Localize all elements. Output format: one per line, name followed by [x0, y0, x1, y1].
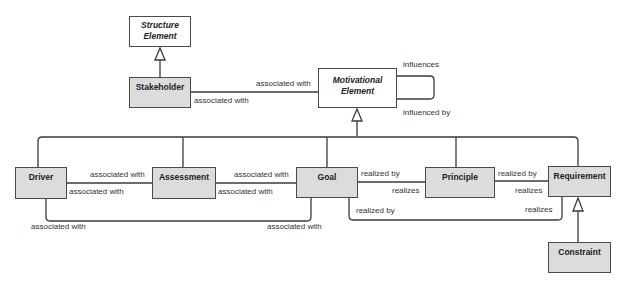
node-driver[interactable]: Driver: [15, 167, 67, 199]
edge-label: associated with: [234, 170, 289, 179]
node-label: Driver: [29, 172, 54, 182]
edge-label: realizes: [392, 186, 420, 195]
edge-label: associated with: [69, 187, 124, 196]
edge-label: realized by: [361, 169, 400, 178]
node-requirement[interactable]: Requirement: [548, 166, 611, 197]
node-label: Requirement: [554, 171, 606, 181]
edge-label: influences: [403, 60, 439, 69]
edge-label: realized by: [498, 169, 537, 178]
edge-label: associated with: [256, 79, 311, 88]
node-motivational-element[interactable]: Motivational Element: [318, 68, 397, 108]
edge-label: influenced by: [403, 108, 450, 117]
edge-label: associated with: [218, 187, 273, 196]
node-label: Motivational: [319, 75, 396, 86]
node-stakeholder[interactable]: Stakeholder: [129, 77, 191, 108]
node-label: Constraint: [558, 247, 601, 257]
node-label: Stakeholder: [136, 82, 185, 92]
motivation-metamodel-diagram: Structure Element Stakeholder Motivation…: [0, 0, 629, 293]
node-goal[interactable]: Goal: [296, 167, 358, 198]
edge-label: realizes: [525, 205, 553, 214]
node-principle[interactable]: Principle: [425, 167, 495, 198]
edge-label: associated with: [267, 222, 322, 231]
node-label: Element: [319, 86, 396, 97]
node-label: Goal: [318, 172, 337, 182]
node-structure-element[interactable]: Structure Element: [129, 16, 191, 47]
connector-lines: [0, 0, 629, 293]
node-label: Assessment: [159, 172, 209, 182]
edge-label: realizes: [515, 186, 543, 195]
node-label: Principle: [442, 172, 478, 182]
edge-label: associated with: [194, 96, 249, 105]
node-label: Element: [130, 31, 190, 42]
node-assessment[interactable]: Assessment: [152, 167, 216, 199]
edge-label: associated with: [31, 222, 86, 231]
edge-label: associated with: [90, 170, 145, 179]
node-constraint[interactable]: Constraint: [548, 242, 611, 273]
edge-label: realized by: [356, 206, 395, 215]
node-label: Structure: [130, 20, 190, 31]
